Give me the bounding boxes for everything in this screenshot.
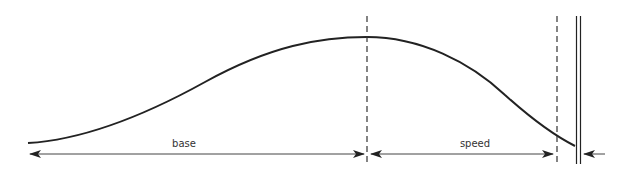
profile-curve	[28, 37, 575, 146]
profile-diagram: base speed	[0, 0, 630, 176]
base-label: base	[172, 138, 196, 149]
wall-double-line	[577, 16, 581, 164]
speed-label: speed	[460, 138, 490, 149]
